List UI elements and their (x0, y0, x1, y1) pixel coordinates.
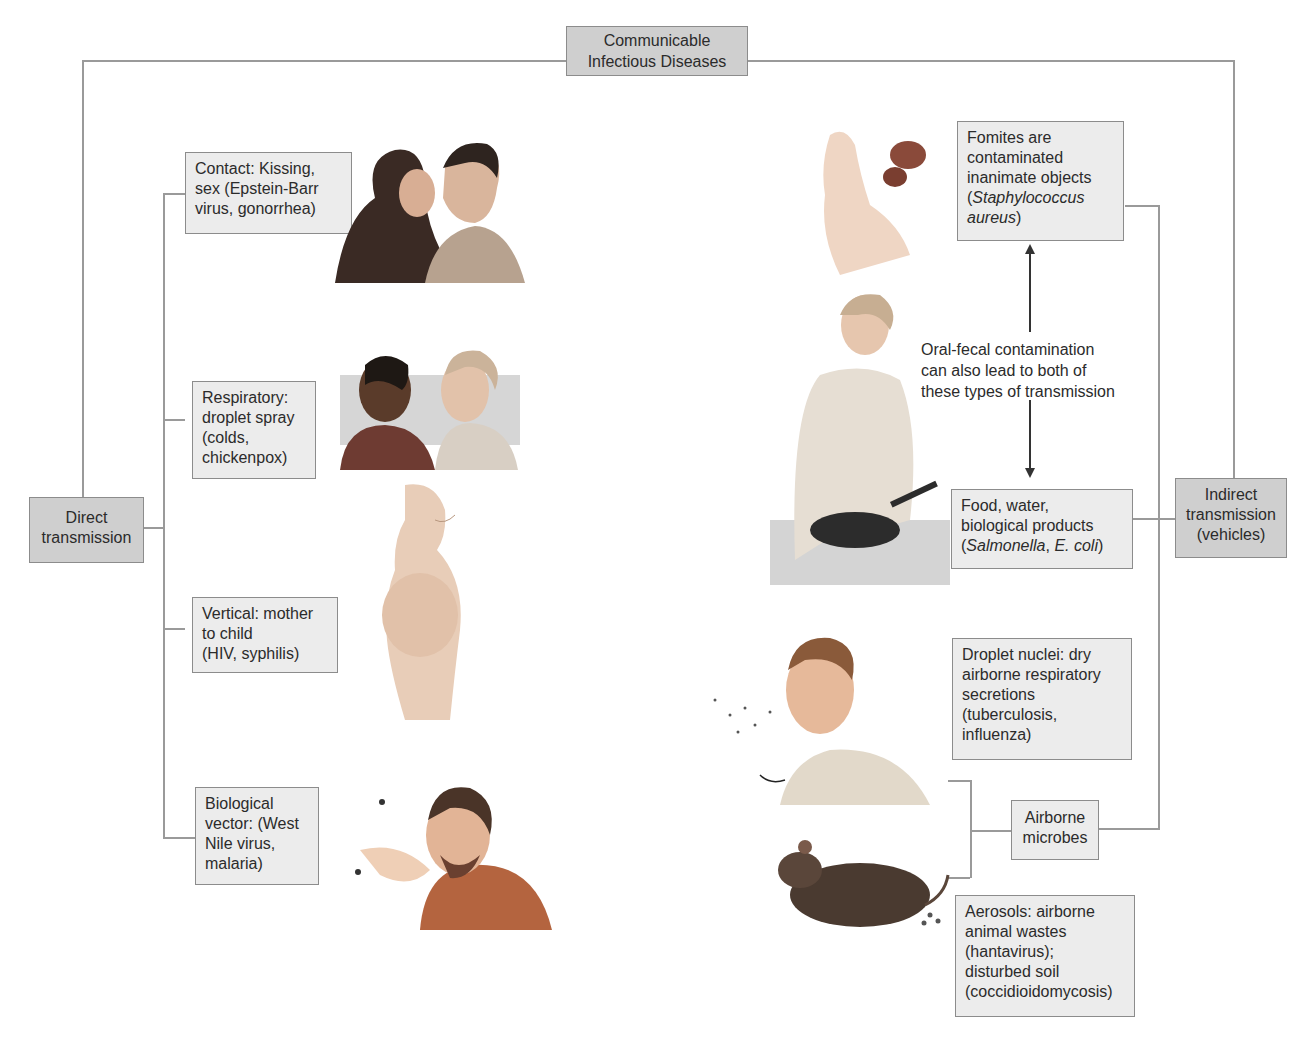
organism-name: aureus (967, 209, 1016, 226)
note-line: Oral-fecal contamination (921, 339, 1115, 360)
droplet-line: secretions (962, 685, 1122, 705)
title-box: Communicable Infectious Diseases (566, 26, 748, 76)
connector (970, 780, 972, 878)
note-line: can also lead to both of (921, 360, 1115, 381)
respiratory-box: Respiratory: droplet spray (colds, chick… (192, 381, 316, 479)
connector (948, 877, 970, 879)
arrowhead-down-icon (1025, 468, 1035, 478)
connector (1098, 828, 1159, 830)
indirect-label-line2: transmission (1178, 505, 1284, 525)
droplet-line: influenza) (962, 725, 1122, 745)
direct-transmission-box: Direct transmission (29, 497, 144, 563)
vector-line: Nile virus, (205, 834, 309, 854)
pregnancy-illustration (375, 480, 485, 720)
vertical-line: to child (202, 624, 328, 644)
connector (970, 830, 1012, 832)
connector (1233, 60, 1235, 478)
connector (163, 837, 195, 839)
organism-name: E. coli (1054, 537, 1098, 554)
food-line: Food, water, (961, 496, 1123, 516)
kissing-illustration (325, 138, 525, 283)
food-box: Food, water, biological products (Salmon… (951, 489, 1133, 569)
contact-line: sex (Epstein-Barr (195, 179, 342, 199)
fomite-hand-illustration (800, 115, 940, 275)
food-line: biological products (961, 516, 1123, 536)
contact-line: virus, gonorrhea) (195, 199, 342, 219)
arrow-up (1029, 252, 1031, 332)
droplet-line: airborne respiratory (962, 665, 1122, 685)
fomites-line: contaminated (967, 148, 1114, 168)
respiratory-line: droplet spray (202, 408, 306, 428)
droplet-line: (tuberculosis, (962, 705, 1122, 725)
indirect-label-line1: Indirect (1178, 485, 1284, 505)
fomites-box: Fomites are contaminated inanimate objec… (957, 121, 1124, 241)
connector (142, 527, 164, 529)
aerosols-line: Aerosols: airborne (965, 902, 1125, 922)
airborne-microbes-box: Airborne microbes (1011, 800, 1099, 860)
arrow-down (1029, 400, 1031, 470)
vertical-box: Vertical: mother to child (HIV, syphilis… (192, 597, 338, 673)
respiratory-line: chickenpox) (202, 448, 306, 468)
fomites-organism2: aureus) (967, 208, 1114, 228)
note-line: these types of transmission (921, 381, 1115, 402)
connector (82, 60, 84, 500)
connector (163, 419, 185, 421)
indirect-transmission-box: Indirect transmission (vehicles) (1175, 478, 1287, 558)
direct-label-line2: transmission (34, 528, 139, 548)
mouse-illustration (760, 825, 950, 945)
fomites-line: Fomites are (967, 128, 1114, 148)
aerosols-box: Aerosols: airborne animal wastes (hantav… (955, 895, 1135, 1017)
cooking-illustration (770, 290, 950, 585)
vector-line: vector: (West (205, 814, 309, 834)
connector (1125, 205, 1159, 207)
connector (748, 60, 1233, 62)
connector (82, 60, 566, 62)
organism-name: Staphylococcus (972, 189, 1084, 206)
food-organisms: (Salmonella, E. coli) (961, 536, 1123, 556)
aerosols-line: (hantavirus); (965, 942, 1125, 962)
connector (163, 193, 185, 195)
droplet-line: Droplet nuclei: dry (962, 645, 1122, 665)
fomites-line: inanimate objects (967, 168, 1114, 188)
title-line1: Communicable (571, 30, 743, 51)
oral-fecal-note: Oral-fecal contamination can also lead t… (921, 339, 1115, 402)
airborne-line2: microbes (1014, 828, 1096, 848)
fomites-organism: (Staphylococcus (967, 188, 1114, 208)
vector-box: Biological vector: (West Nile virus, mal… (195, 787, 319, 885)
vector-line: Biological (205, 794, 309, 814)
airborne-line1: Airborne (1014, 808, 1096, 828)
respiratory-line: (colds, (202, 428, 306, 448)
aerosols-line: (coccidioidomycosis) (965, 982, 1125, 1002)
aerosols-line: animal wastes (965, 922, 1125, 942)
direct-label-line1: Direct (34, 508, 139, 528)
connector (163, 193, 165, 837)
connector (948, 780, 970, 782)
respiratory-line: Respiratory: (202, 388, 306, 408)
aerosols-line: disturbed soil (965, 962, 1125, 982)
vector-line: malaria) (205, 854, 309, 874)
arrowhead-up-icon (1025, 244, 1035, 254)
coughing-man-illustration (700, 630, 950, 805)
vertical-line: Vertical: mother (202, 604, 328, 624)
contact-line: Contact: Kissing, (195, 159, 342, 179)
droplet-nuclei-box: Droplet nuclei: dry airborne respiratory… (952, 638, 1132, 760)
connector (163, 628, 185, 630)
connector (1133, 518, 1175, 520)
vertical-line: (HIV, syphilis) (202, 644, 328, 664)
title-line2: Infectious Diseases (571, 51, 743, 72)
indirect-label-line3: (vehicles) (1178, 525, 1284, 545)
respiratory-illustration (340, 345, 520, 470)
mosquito-man-illustration (320, 780, 552, 930)
organism-name: Salmonella (966, 537, 1045, 554)
